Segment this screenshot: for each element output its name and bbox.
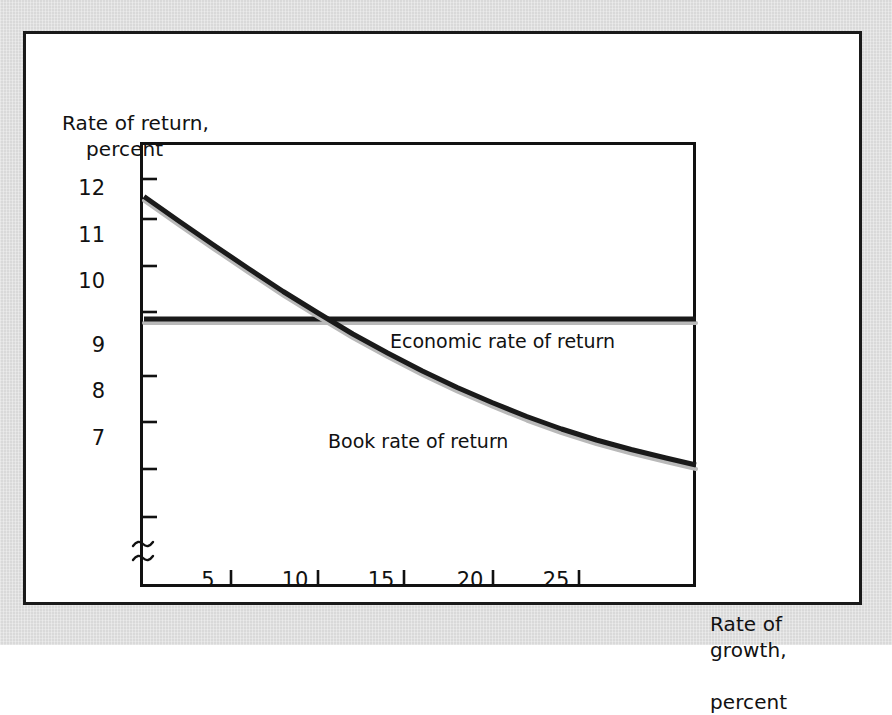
x-axis-title: Rate of growth, percent — [710, 585, 859, 715]
figure-outer-border: Rate of return, percent Rate of growth, … — [23, 31, 862, 605]
y-tick-label: 11 — [65, 223, 105, 247]
plot-vector-layer — [140, 142, 696, 587]
series-shadow — [144, 201, 696, 470]
axis-break-symbol — [133, 542, 153, 560]
y-tick-label: 12 — [65, 176, 105, 200]
x-axis-title-line2: percent — [710, 690, 787, 714]
y-tick-label: 10 — [65, 269, 105, 293]
data-series — [144, 197, 696, 470]
y-axis-title-line1: Rate of return, — [62, 111, 209, 135]
y-tick-label: 8 — [65, 379, 105, 403]
x-axis-title-line1: Rate of growth, — [710, 612, 787, 662]
series-line — [144, 197, 696, 466]
y-tick-label: 9 — [65, 333, 105, 357]
y-tick-label: 7 — [65, 426, 105, 450]
